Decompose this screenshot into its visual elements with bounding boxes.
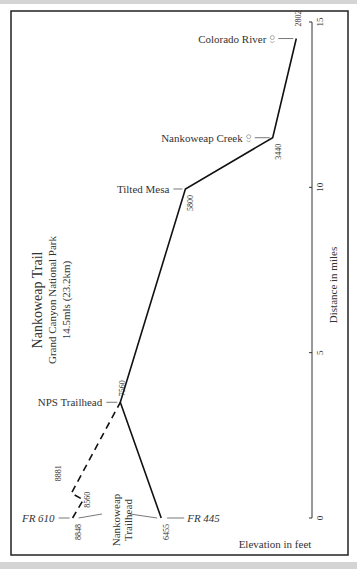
x-axis-label: Elevation in feet [239, 538, 312, 550]
trailhead-leader-line [130, 514, 157, 518]
elevation-profile-chart: Nankoweap Trail Grand Canyon National Pa… [0, 0, 357, 569]
elevation-label: 7560 [118, 380, 127, 396]
chart-title: Nankoweap Trail [30, 251, 45, 348]
trailhead-leader-line [79, 514, 102, 518]
waypoint-label: FR 610 [21, 512, 55, 524]
water-icon-wave [270, 42, 274, 43]
y-axis-label: Distance in miles [327, 247, 339, 323]
waypoint-label: NPS Trailhead [38, 396, 103, 408]
length-note: 14.5mls (23.2km) [60, 260, 73, 339]
trailhead-label-line2: Trailhead [122, 499, 134, 541]
series-group: 64557560580034402802884885608881 [54, 11, 303, 540]
elevation-label: 8881 [54, 465, 63, 481]
water-icon-wave [247, 141, 251, 142]
water-icon [270, 36, 274, 43]
chart-subtitle: Grand Canyon National Park [46, 236, 58, 364]
distance-axis: 051015 [309, 17, 325, 520]
waypoint-label: Tilted Mesa [117, 183, 170, 195]
water-icon [247, 135, 251, 142]
elevation-label: 3440 [274, 144, 283, 160]
elevation-label: 8560 [83, 492, 92, 508]
trailhead-label: Nankoweap Trailhead [110, 493, 134, 546]
elevation-label: 2802 [294, 11, 303, 27]
waypoint-label: FR 445 [186, 512, 220, 524]
distance-tick-label: 15 [315, 17, 325, 27]
elevation-label: 8848 [74, 524, 83, 540]
trailhead-label-line1: Nankoweap [110, 493, 122, 546]
distance-tick-label: 10 [315, 182, 325, 192]
waypoint-label: Colorado River [198, 33, 266, 45]
elevation-label: 5800 [186, 195, 195, 211]
title-block: Nankoweap Trail Grand Canyon National Pa… [30, 236, 73, 364]
distance-tick-label: 0 [315, 515, 325, 520]
main-trail-line [120, 39, 296, 519]
elevation-label: 6455 [162, 524, 171, 540]
waypoint-label: Nankoweap Creek [161, 132, 243, 144]
water-icon-circle [247, 135, 251, 139]
distance-tick-label: 5 [315, 350, 325, 355]
water-icon-circle [270, 36, 274, 40]
